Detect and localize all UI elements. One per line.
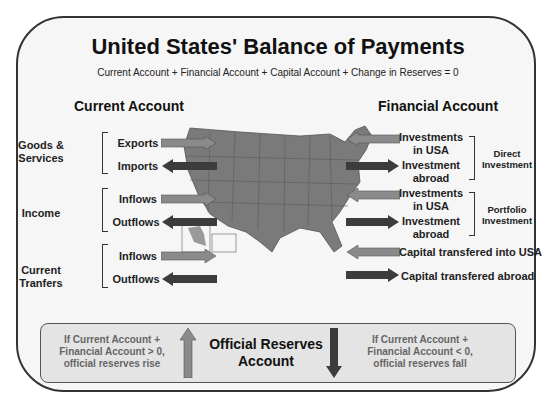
portfolio-abroad-label: Investmentabroad: [396, 215, 466, 241]
direct-investment-bracket: [469, 136, 475, 180]
current-transfers-label: CurrentTranfers: [14, 264, 68, 290]
portfolio-in-usa-arrow-icon: [346, 188, 400, 202]
direct-abroad-label: Investmentabroad: [396, 159, 466, 185]
official-reserves-title: Official ReservesAccount: [206, 336, 326, 370]
reserves-up-arrow-icon: [180, 328, 196, 378]
income-label: Income: [14, 207, 68, 220]
capital-into-usa-label: Capital transfered into USA: [399, 246, 542, 259]
reserves-down-arrow-icon: [326, 328, 342, 378]
portfolio-abroad-arrow-icon: [346, 215, 400, 229]
capital-abroad-label: Capital transfered abroad: [401, 270, 534, 283]
transfers-outflows-arrow-icon: [161, 272, 217, 286]
direct-in-usa-arrow-icon: [346, 132, 400, 146]
direct-in-usa-label: Investmentsin USA: [396, 131, 466, 157]
imports-label: Imports: [112, 160, 164, 173]
current-account-heading: Current Account: [74, 98, 184, 114]
reserves-fall-text: If Current Account +Financial Account < …: [360, 334, 480, 370]
portfolio-in-usa-label: Investmentsin USA: [396, 187, 466, 213]
income-inflows-label: Inflows: [112, 193, 164, 206]
direct-investment-label: DirectInvestment: [478, 148, 536, 170]
diagram-title: United States' Balance of Payments: [0, 34, 556, 60]
financial-account-heading: Financial Account: [378, 98, 498, 114]
income-inflows-arrow-icon: [161, 192, 217, 206]
income-outflows-label: Outflows: [108, 216, 164, 229]
transfers-inflows-arrow-icon: [161, 249, 217, 263]
capital-abroad-arrow-icon: [346, 268, 400, 282]
portfolio-investment-label: PortfolioInvestment: [478, 204, 536, 226]
exports-label: Exports: [112, 137, 164, 150]
transfers-outflows-label: Outflows: [108, 273, 164, 286]
reserves-rise-text: If Current Account +Financial Account > …: [52, 334, 172, 370]
imports-arrow-icon: [161, 159, 217, 173]
goods-services-bracket: [102, 132, 108, 174]
transfers-inflows-label: Inflows: [112, 250, 164, 263]
exports-arrow-icon: [161, 136, 217, 150]
portfolio-investment-bracket: [469, 192, 475, 236]
equation-subtitle: Current Account + Financial Account + Ca…: [0, 67, 556, 78]
goods-services-label: Goods &Services: [14, 139, 68, 165]
income-outflows-arrow-icon: [161, 215, 217, 229]
capital-into-usa-arrow-icon: [346, 245, 400, 259]
direct-abroad-arrow-icon: [346, 159, 400, 173]
